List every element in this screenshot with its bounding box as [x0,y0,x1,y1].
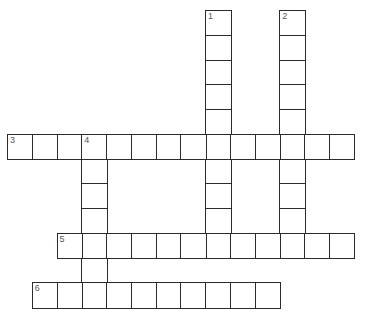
crossword-cell[interactable] [205,60,232,87]
crossword-cell[interactable] [279,208,306,235]
crossword-cell[interactable] [205,233,232,260]
crossword-cell[interactable] [156,134,183,161]
crossword-cell[interactable] [156,233,183,260]
crossword-cell[interactable] [279,84,306,111]
crossword-cell[interactable] [279,183,306,210]
crossword-cell[interactable] [205,35,232,62]
crossword-cell[interactable] [131,233,158,260]
crossword-cell[interactable] [131,134,158,161]
crossword-cell[interactable] [106,134,133,161]
crossword-cell[interactable] [304,134,331,161]
crossword-cell[interactable]: 3 [7,134,34,161]
crossword-cell[interactable]: 5 [57,233,84,260]
crossword-cell[interactable] [304,233,331,260]
crossword-cell[interactable] [279,109,306,136]
crossword-cell[interactable]: 6 [32,282,59,309]
crossword-cell[interactable] [230,233,257,260]
crossword-cell[interactable] [329,233,356,260]
crossword-grid: 123456 [0,0,367,321]
crossword-cell[interactable] [205,282,232,309]
crossword-cell[interactable]: 2 [279,10,306,37]
crossword-cell[interactable] [279,35,306,62]
crossword-cell[interactable] [205,208,232,235]
clue-number: 2 [282,11,287,21]
crossword-cell[interactable] [205,84,232,111]
crossword-cell[interactable] [279,233,306,260]
clue-number: 4 [84,135,89,145]
crossword-cell[interactable] [205,183,232,210]
crossword-cell[interactable] [230,134,257,161]
clue-number: 3 [10,135,15,145]
crossword-cell[interactable] [131,282,158,309]
clue-number: 5 [60,234,65,244]
crossword-cell[interactable] [279,134,306,161]
crossword-cell[interactable] [255,282,282,309]
crossword-cell[interactable]: 4 [81,134,108,161]
crossword-cell[interactable] [255,233,282,260]
crossword-cell[interactable] [329,134,356,161]
crossword-cell[interactable] [156,282,183,309]
crossword-cell[interactable]: 1 [205,10,232,37]
crossword-cell[interactable] [106,282,133,309]
crossword-cell[interactable] [180,233,207,260]
crossword-cell[interactable] [180,282,207,309]
crossword-cell[interactable] [81,282,108,309]
crossword-cell[interactable] [81,159,108,186]
crossword-cell[interactable] [279,159,306,186]
crossword-cell[interactable] [230,282,257,309]
crossword-cell[interactable] [255,134,282,161]
crossword-cell[interactable] [32,134,59,161]
crossword-cell[interactable] [57,282,84,309]
crossword-cell[interactable] [81,183,108,210]
clue-number: 6 [35,283,40,293]
crossword-cell[interactable] [279,60,306,87]
crossword-cell[interactable] [81,233,108,260]
crossword-cell[interactable] [81,258,108,285]
crossword-cell[interactable] [205,159,232,186]
crossword-cell[interactable] [205,109,232,136]
crossword-cell[interactable] [205,134,232,161]
clue-number: 1 [208,11,213,21]
crossword-cell[interactable] [57,134,84,161]
crossword-cell[interactable] [106,233,133,260]
crossword-cell[interactable] [81,208,108,235]
crossword-cell[interactable] [180,134,207,161]
